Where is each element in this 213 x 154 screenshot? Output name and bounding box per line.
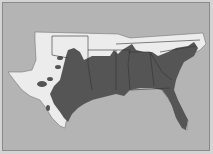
dark-patch xyxy=(37,81,47,87)
dark-patch xyxy=(47,77,53,81)
south-map xyxy=(0,0,213,154)
dark-patch xyxy=(55,65,61,69)
dark-region xyxy=(50,42,198,130)
dark-patch xyxy=(46,105,50,111)
